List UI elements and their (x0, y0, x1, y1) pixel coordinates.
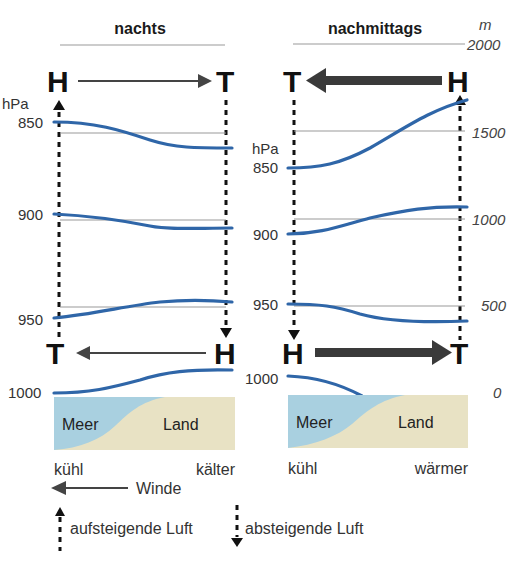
sea-temperature: kühl (288, 460, 317, 477)
upper-wind-arrow (78, 74, 212, 88)
rising-arrow-icon (55, 507, 65, 516)
land-temperature: kälter (196, 461, 236, 478)
altitude-axis: m 2000 1500 1000 500 0 (466, 16, 507, 401)
isobar-900 (54, 214, 232, 229)
low-pressure-label: T (450, 337, 468, 370)
isobar-1000 (54, 370, 232, 393)
altitude-tick-1000: 1000 (472, 211, 506, 228)
pressure-unit: hPa (2, 95, 29, 112)
surface-wind-arrow (315, 340, 452, 365)
panel-night: nachts H T T H hPa 850 900 (2, 20, 236, 478)
isobar-label-900: 900 (18, 206, 43, 223)
isobar-label-1000: 1000 (245, 370, 278, 387)
pressure-unit: hPa (252, 140, 279, 157)
isobar-950 (288, 304, 467, 322)
isobar-950 (54, 300, 232, 318)
low-pressure-label: T (216, 65, 234, 98)
sea-breeze-diagram: nachts H T T H hPa 850 900 (0, 0, 521, 561)
isobar-label-850: 850 (253, 159, 278, 176)
high-pressure-label: H (47, 65, 69, 98)
isobar-label-950: 950 (18, 311, 43, 328)
low-pressure-label: T (283, 65, 301, 98)
surface-night: Meer Land (54, 397, 235, 450)
sea-label: Meer (62, 416, 99, 433)
legend-wind: Winde (51, 480, 181, 497)
isobar-label-1000: 1000 (8, 384, 41, 401)
altitude-tick-500: 500 (481, 297, 507, 314)
land-label: Land (398, 414, 434, 431)
panel-afternoon: nachmittags T H H T hPa 850 (245, 20, 469, 477)
isobar-900 (288, 207, 467, 234)
isobar-850 (54, 122, 232, 148)
high-pressure-label: H (214, 337, 236, 370)
altitude-tick-1500: 1500 (472, 124, 506, 141)
sea-label: Meer (296, 414, 333, 431)
wind-arrowhead-icon (51, 481, 66, 495)
panel-title-afternoon: nachmittags (328, 20, 422, 37)
legend-rising: aufsteigende Luft (55, 507, 193, 551)
sea-temperature: kühl (54, 461, 83, 478)
isobar-850 (288, 100, 467, 168)
land-temperature: wärmer (414, 460, 469, 477)
sinking-arrow-icon (231, 538, 243, 547)
upper-wind-arrow (306, 68, 442, 93)
land-label: Land (163, 416, 199, 433)
isobar-label-900: 900 (253, 226, 278, 243)
panel-title-night: nachts (114, 20, 166, 37)
low-pressure-label: T (46, 337, 64, 370)
high-pressure-label: H (282, 337, 304, 370)
legend-sinking-label: absteigende Luft (245, 520, 364, 537)
isobar-1000 (288, 376, 362, 396)
surface-wind-arrow (76, 346, 206, 360)
legend-rising-label: aufsteigende Luft (70, 520, 193, 537)
legend-wind-label: Winde (136, 480, 181, 497)
surface-afternoon: Meer Land (288, 395, 468, 448)
isobar-label-950: 950 (253, 296, 278, 313)
altitude-tick-2000: 2000 (466, 36, 501, 53)
rising-air-arrow (454, 95, 466, 340)
altitude-tick-0: 0 (493, 384, 502, 401)
altitude-unit: m (479, 16, 492, 33)
legend: Winde aufsteigende Luft absteigende Luft (51, 480, 364, 551)
legend-sinking: absteigende Luft (231, 505, 364, 547)
isobar-label-850: 850 (18, 114, 43, 131)
high-pressure-label: H (447, 65, 469, 98)
rising-air-arrow (53, 100, 65, 338)
